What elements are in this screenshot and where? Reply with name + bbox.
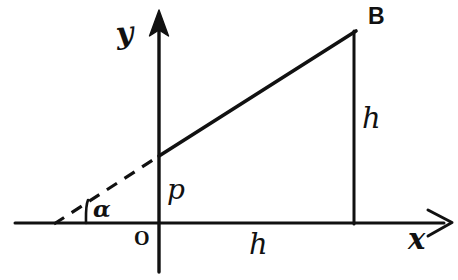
intercept-p-label: p bbox=[167, 176, 185, 204]
point-b-label: B bbox=[368, 5, 385, 28]
line-segment-p-to-b bbox=[159, 31, 356, 156]
angle-alpha-label: α bbox=[93, 197, 111, 220]
angle-alpha-arc-icon bbox=[86, 200, 88, 223]
run-h-label: h bbox=[249, 230, 268, 259]
figure-canvas bbox=[0, 0, 458, 280]
y-axis-label: y bbox=[114, 17, 134, 49]
x-axis-label: x bbox=[408, 225, 425, 254]
geometry-figure: y x O B p α h h bbox=[0, 0, 458, 280]
height-h-label: h bbox=[362, 104, 381, 133]
origin-label: O bbox=[134, 228, 150, 248]
